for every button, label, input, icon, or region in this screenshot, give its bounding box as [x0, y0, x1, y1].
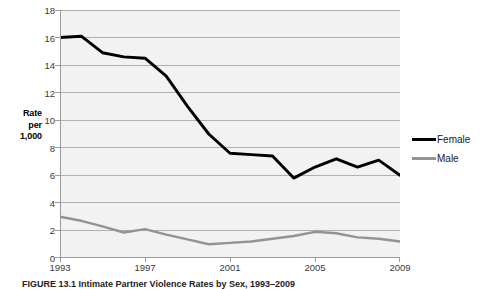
chart-legend: Female Male: [412, 130, 482, 168]
gridlines: [60, 11, 400, 231]
y-axis-tickmarks: [53, 10, 61, 262]
figure-container: Rate per 1,000 0 2 4 6 8 10 12 14 16 18 …: [0, 0, 484, 289]
y-tick-label-4: 4: [33, 198, 55, 209]
plot-area: [60, 10, 400, 258]
legend-item-male[interactable]: Male: [412, 149, 482, 168]
x-tick-label-2001: 2001: [210, 262, 250, 273]
legend-item-female[interactable]: Female: [412, 130, 482, 149]
legend-swatch-female-icon: [412, 138, 436, 141]
y-tick-label-6: 6: [33, 170, 55, 181]
figure-caption: FIGURE 13.1 Intimate Partner Violence Ra…: [22, 279, 462, 289]
y-axis-title-line-3: 1,000: [2, 131, 42, 143]
series-line-female: [60, 36, 400, 178]
y-tick-label-12: 12: [33, 88, 55, 99]
y-tick-label-18: 18: [33, 5, 55, 16]
x-tick-label-1997: 1997: [125, 262, 165, 273]
x-tick-label-1993: 1993: [40, 262, 80, 273]
y-tick-label-2: 2: [33, 225, 55, 236]
x-tick-label-2005: 2005: [295, 262, 335, 273]
chart-svg: [60, 10, 400, 258]
legend-swatch-male-icon: [412, 157, 436, 160]
y-tick-label-10: 10: [33, 115, 55, 126]
legend-label-female: Female: [436, 134, 470, 145]
x-tick-label-2009: 2009: [380, 262, 420, 273]
y-tick-label-14: 14: [33, 60, 55, 71]
y-tick-label-8: 8: [33, 143, 55, 154]
x-axis-tickmarks: [60, 256, 405, 262]
legend-label-male: Male: [436, 153, 459, 164]
y-tick-label-16: 16: [33, 33, 55, 44]
